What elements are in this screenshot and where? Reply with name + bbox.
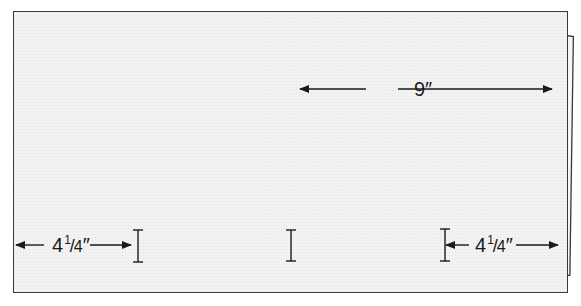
left-numerator: 1	[64, 233, 71, 247]
right-panel-label: 41/4″	[475, 235, 513, 255]
center-score-mark-icon	[286, 230, 296, 261]
right-numerator: 1	[487, 233, 494, 247]
right-unit: ″	[506, 234, 513, 256]
total-width-label: 9″	[414, 79, 432, 99]
left-score-mark-icon	[133, 230, 143, 262]
left-unit: ″	[83, 234, 90, 256]
left-panel-label: 41/4″	[52, 235, 90, 255]
measurement-overlay	[0, 0, 581, 306]
right-denominator: 4	[497, 238, 506, 255]
right-whole: 4	[475, 234, 486, 256]
left-whole: 4	[52, 234, 63, 256]
left-denominator: 4	[74, 238, 83, 255]
